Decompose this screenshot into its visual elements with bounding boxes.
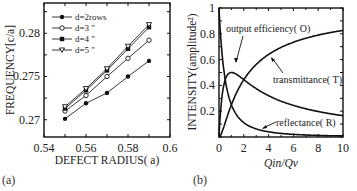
legend-entry-a: d=2rows — [75, 12, 107, 22]
x-tick-label-b: 8 — [315, 141, 321, 155]
x-tick-label-b: 2 — [241, 141, 247, 155]
panel-label-a: (a) — [2, 173, 15, 187]
y-axis-label-b: INTENSITY(amplitude²) — [186, 13, 199, 130]
x-tick-label-a: 0.58 — [118, 141, 139, 155]
x-tick-label-b: 0 — [216, 141, 222, 155]
x-tick-label-b: 10 — [337, 141, 349, 155]
x-tick-label-a: 0.6 — [163, 141, 178, 155]
y-tick-label-b: 1 — [209, 1, 215, 15]
annotation-transmittance: transmittance( T) — [273, 74, 342, 86]
figure: 0.540.560.580.60.270.2750.28DEFECT RADIU… — [0, 0, 357, 191]
annotation-output-efficiency: output efficiency( O) — [226, 23, 310, 35]
chart-b: 02468100.20.40.60.81Qin/QvINTENSITY(ampl… — [186, 1, 349, 187]
x-tick-label-b: 4 — [266, 141, 272, 155]
x-axis-label-b: Qin/Qv — [264, 157, 299, 169]
x-tick-label-a: 0.54 — [34, 141, 55, 155]
x-tick-label-a: 0.56 — [76, 141, 97, 155]
y-tick-label-b: 0.4 — [200, 78, 215, 92]
chart-a: 0.540.560.580.60.270.2750.28DEFECT RADIU… — [2, 3, 178, 187]
legend-entry-a: d=3 " — [75, 23, 95, 33]
x-tick-label-b: 6 — [290, 141, 296, 155]
legend-entry-a: d=4 " — [75, 34, 95, 44]
annotation-reflectance: reflectance( R) — [276, 117, 336, 129]
y-tick-label-a: 0.275 — [13, 69, 40, 83]
legend-entry-a: d=5 " — [75, 45, 95, 55]
y-tick-label-b: 0.6 — [200, 53, 215, 67]
series-a-1: d=3 " — [52, 23, 151, 113]
y-tick-label-a: 0.27 — [19, 113, 40, 127]
x-axis-label-a: DEFECT RADIUS( a) — [55, 154, 160, 167]
y-tick-label-a: 0.28 — [19, 26, 40, 40]
panel-label-b: (b) — [193, 173, 207, 187]
y-axis-label-a: FREQUENCY[c/a] — [4, 25, 16, 115]
y-tick-label-b: 0.2 — [200, 104, 215, 118]
y-tick-label-b: 0.8 — [200, 27, 215, 41]
series-a-3: d=5 " — [52, 23, 152, 110]
